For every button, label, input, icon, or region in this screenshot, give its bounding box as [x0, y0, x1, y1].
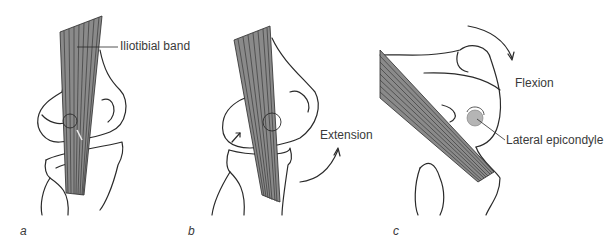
- itb-band-a: [60, 16, 102, 195]
- panel-letter-a: a: [20, 224, 27, 238]
- diagram-canvas: [0, 0, 607, 245]
- lateral-epicondyle-marker: [467, 107, 484, 126]
- label-iliotibial-band: Iliotibial band: [120, 39, 190, 53]
- panel-c-knee: [380, 26, 514, 215]
- panel-letter-c: c: [393, 224, 399, 238]
- leader-lateral-epicondyle: [477, 119, 505, 140]
- panel-letter-b: b: [188, 224, 195, 238]
- itb-band-b: [234, 26, 281, 202]
- knee-itb-diagram: Iliotibial band Extension Flexion Latera…: [0, 0, 607, 245]
- label-lateral-epicondyle: Lateral epicondyle: [506, 133, 603, 147]
- label-flexion: Flexion: [515, 76, 554, 90]
- label-extension: Extension: [320, 128, 373, 142]
